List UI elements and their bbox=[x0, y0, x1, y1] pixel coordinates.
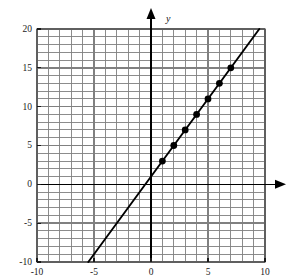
x-tick-label-neg10: -10 bbox=[31, 267, 44, 277]
graph-canvas: y 20 15 10 5 0 -5 -10 -10 -5 0 5 10 bbox=[0, 0, 289, 280]
data-point-marker bbox=[193, 111, 200, 118]
data-point-marker bbox=[227, 64, 234, 71]
y-tick-label-20: 20 bbox=[23, 24, 33, 34]
y-axis-arrowhead bbox=[147, 8, 156, 19]
data-point-marker bbox=[159, 158, 166, 165]
data-point-marker bbox=[182, 127, 189, 134]
coordinate-graph-figure: y 20 15 10 5 0 -5 -10 -10 -5 0 5 10 bbox=[0, 0, 289, 280]
x-tick-label-0: 0 bbox=[149, 267, 154, 277]
y-tick-label-neg5: -5 bbox=[24, 218, 32, 228]
x-tick-label-neg5: -5 bbox=[90, 267, 98, 277]
data-point-marker bbox=[170, 142, 177, 149]
y-tick-label-0: 0 bbox=[27, 179, 32, 189]
y-tick-label-neg10: -10 bbox=[19, 257, 32, 267]
y-tick-label-15: 15 bbox=[23, 63, 33, 73]
x-axis-arrowhead bbox=[275, 180, 286, 189]
data-point-marker bbox=[205, 96, 212, 103]
y-axis-label: y bbox=[165, 13, 171, 24]
y-tick-label-5: 5 bbox=[27, 140, 32, 150]
y-tick-label-10: 10 bbox=[23, 102, 33, 112]
x-tick-label-10: 10 bbox=[260, 267, 270, 277]
data-point-marker bbox=[216, 80, 223, 87]
x-tick-label-5: 5 bbox=[206, 267, 211, 277]
